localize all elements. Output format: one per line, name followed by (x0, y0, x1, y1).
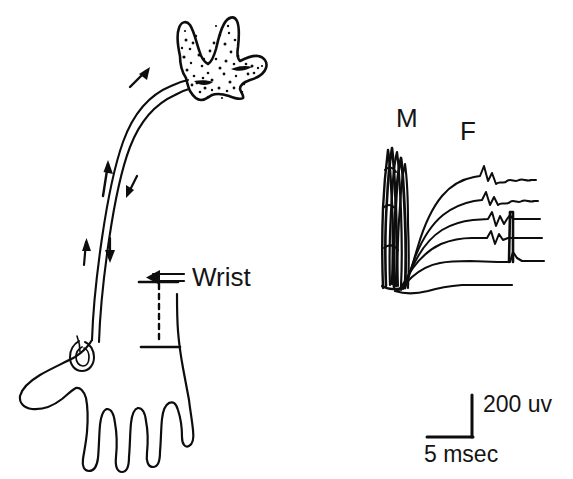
m-wave-label: M (396, 103, 418, 133)
wrist-label: Wrist (192, 262, 252, 292)
figure-canvas: Wrist (0, 0, 573, 479)
figure-container: Wrist (0, 0, 573, 479)
time-scale-label: 5 msec (424, 441, 498, 467)
amplitude-scale-label: 200 uv (483, 391, 553, 417)
f-wave-label: F (460, 116, 476, 146)
